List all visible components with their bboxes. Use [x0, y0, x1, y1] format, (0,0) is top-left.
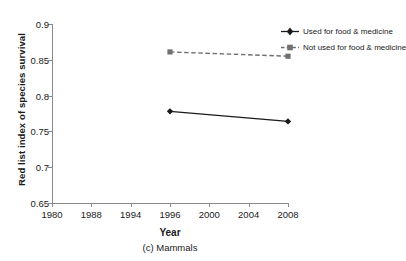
- y-tick-label: 0.65: [31, 198, 50, 209]
- x-tick: [209, 203, 210, 207]
- legend-key-solid-diamond-icon: [281, 26, 299, 37]
- x-tick-label: 2004: [238, 209, 259, 220]
- legend-key-dashed-square-icon: [281, 42, 299, 53]
- y-tick-label: 0.75: [31, 126, 50, 137]
- x-tick: [288, 203, 289, 207]
- legend-label-not-used: Not used for food & medicine: [303, 42, 406, 53]
- data-point-marker: [285, 118, 291, 124]
- series-line: [170, 111, 288, 121]
- plot-area: 0.650.70.750.80.850.9 198019881994199620…: [52, 24, 288, 203]
- figure-caption: (c) Mammals: [52, 242, 288, 253]
- chart-legend: Used for food & medicine Not used for fo…: [281, 25, 406, 57]
- x-axis-title: Year: [52, 227, 288, 238]
- x-tick-label: 1980: [41, 209, 62, 220]
- series-layer: [52, 24, 288, 203]
- legend-item-not-used: Not used for food & medicine: [281, 41, 406, 54]
- y-tick-label: 0.85: [31, 54, 50, 65]
- x-tick-label: 2008: [277, 209, 298, 220]
- legend-item-used: Used for food & medicine: [281, 25, 406, 38]
- y-tick-label: 0.7: [36, 162, 49, 173]
- x-tick: [170, 203, 171, 207]
- data-point-marker: [167, 49, 172, 54]
- x-tick-label: 1994: [120, 209, 141, 220]
- x-tick: [131, 203, 132, 207]
- x-tick: [52, 203, 53, 207]
- x-tick: [249, 203, 250, 207]
- x-tick-label: 2000: [199, 209, 220, 220]
- y-tick-label: 0.9: [36, 19, 49, 30]
- data-point-marker: [167, 108, 173, 114]
- x-tick-label: 1996: [159, 209, 180, 220]
- chart-figure: Red list index of species survival 0.650…: [0, 0, 406, 261]
- y-tick-label: 0.8: [36, 90, 49, 101]
- y-axis-title: Red list index of species survival: [16, 15, 27, 205]
- legend-label-used: Used for food & medicine: [303, 26, 393, 37]
- x-tick-label: 1988: [81, 209, 102, 220]
- series-line: [170, 52, 288, 56]
- x-tick: [91, 203, 92, 207]
